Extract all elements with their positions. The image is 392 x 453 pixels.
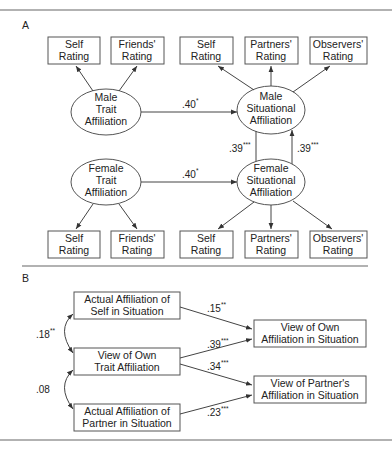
svg-text:Affiliation: Affiliation [250,114,293,126]
female-sit-observers-rating-box: Observers' Rating [310,231,367,258]
view-own-trait-box: View of Own Trait Affiliation [74,348,180,375]
male-sit-partners-rating-box: Partners' Rating [245,37,298,64]
svg-text:Friends': Friends' [118,38,155,50]
female-trait-self-rating-box: Self Rating [48,231,100,258]
coef-female-trait-to-sit: .40* [182,167,199,180]
coef-female-sit-to-male-sit: .39*** [297,141,319,154]
svg-text:Male: Male [260,90,283,102]
panel-a-label: A [22,19,29,31]
arrow-female-sit-observers [293,201,332,229]
svg-text:Trait Affiliation: Trait Affiliation [94,361,160,373]
svg-text:Partners': Partners' [250,232,292,244]
sem-diagram: A Self Rating Friends' Rating Self Ratin… [0,0,392,453]
coef-male-sit-to-female-sit: .39*** [229,141,251,154]
svg-text:Affiliation in Situation: Affiliation in Situation [261,389,358,401]
svg-text:Rating: Rating [323,50,354,62]
svg-text:Affiliation: Affiliation [250,186,293,198]
coef-trait-to-own: .39*** [207,337,229,350]
svg-text:Self: Self [65,232,83,244]
svg-text:Friends': Friends' [118,232,155,244]
svg-text:Rating: Rating [191,50,222,62]
svg-text:Trait: Trait [96,174,117,186]
svg-text:Observers': Observers' [313,232,363,244]
svg-text:Affiliation: Affiliation [85,186,128,198]
svg-text:View of Own: View of Own [98,349,157,361]
coef-correlation-self-trait: .18** [36,327,55,340]
svg-text:Trait: Trait [96,103,117,115]
female-trait-friends-rating-box: Friends' Rating [111,231,164,258]
panel-b-label: B [22,272,29,284]
male-sit-observers-rating-box: Observers' Rating [310,37,367,64]
view-own-affiliation-situation-box: View of Own Affiliation in Situation [254,320,366,347]
svg-text:Rating: Rating [59,50,90,62]
arrow-female-trait-friends [119,204,137,229]
svg-text:Observers': Observers' [313,38,363,50]
svg-text:Rating: Rating [323,244,354,256]
male-sit-self-rating-box: Self Rating [180,37,233,64]
svg-text:Rating: Rating [256,50,287,62]
arrow-male-trait-self [76,66,93,91]
coef-self-to-own: .15** [207,301,226,314]
coef-correlation-trait-partner: .08 [36,384,50,395]
female-sit-self-rating-box: Self Rating [180,231,233,258]
svg-text:Rating: Rating [256,244,287,256]
svg-text:Actual Affiliation of: Actual Affiliation of [84,405,170,417]
svg-text:Rating: Rating [59,244,90,256]
male-trait-self-rating-box: Self Rating [48,37,100,64]
coef-male-trait-to-sit: .40* [182,97,199,110]
male-trait-friends-rating-box: Friends' Rating [111,37,164,64]
arrow-female-trait-self [76,204,93,229]
svg-text:View of Own: View of Own [281,321,340,333]
svg-text:Partners': Partners' [250,38,292,50]
arrow-female-sit-self [218,202,254,229]
actual-affiliation-partner-box: Actual Affiliation of Partner in Situati… [74,404,180,431]
male-trait-affiliation-ellipse: Male Trait Affiliation [71,89,141,135]
svg-text:Situational: Situational [246,174,295,186]
svg-text:Rating: Rating [122,244,153,256]
female-trait-affiliation-ellipse: Female Trait Affiliation [71,159,141,205]
arrow-male-sit-observers [293,66,330,92]
svg-text:Self: Self [197,232,215,244]
svg-text:Male: Male [95,91,118,103]
svg-text:Situational: Situational [246,102,295,114]
actual-affiliation-self-box: Actual Affiliation of Self in Situation [74,292,180,319]
correlation-trait-partner [65,370,74,409]
svg-text:Affiliation in Situation: Affiliation in Situation [261,333,358,345]
svg-text:Self in Situation: Self in Situation [91,305,164,317]
coef-trait-to-partner: .34*** [207,359,229,372]
male-situational-affiliation-ellipse: Male Situational Affiliation [237,86,305,134]
female-sit-partners-rating-box: Partners' Rating [245,231,298,258]
svg-text:Affiliation: Affiliation [85,115,128,127]
svg-text:Female: Female [253,162,288,174]
arrow-male-sit-self [218,66,254,90]
svg-text:Self: Self [65,38,83,50]
view-partner-affiliation-situation-box: View of Partner's Affiliation in Situati… [254,376,366,403]
svg-text:Rating: Rating [122,50,153,62]
coef-partner-to-partner: .23*** [207,405,229,418]
correlation-self-trait [65,314,74,353]
svg-text:Rating: Rating [191,244,222,256]
female-situational-affiliation-ellipse: Female Situational Affiliation [237,159,305,205]
svg-text:Female: Female [88,162,123,174]
svg-text:Self: Self [197,38,215,50]
svg-text:Actual Affiliation of: Actual Affiliation of [84,293,170,305]
svg-text:View of Partner's: View of Partner's [271,377,350,389]
arrow-male-trait-friends [119,66,137,91]
svg-text:Partner in Situation: Partner in Situation [82,417,171,429]
